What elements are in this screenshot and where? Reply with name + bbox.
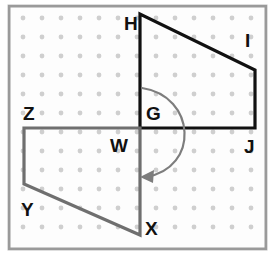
grid-dot [21, 54, 26, 59]
grid-dot [230, 111, 235, 116]
grid-dot [173, 225, 178, 230]
grid-dot [59, 54, 64, 59]
grid-dot [40, 92, 45, 97]
grid-dot [59, 149, 64, 154]
grid-dot [59, 187, 64, 192]
grid-dot [97, 16, 102, 21]
grid-dot [230, 206, 235, 211]
grid-dot [97, 73, 102, 78]
grid-dot [97, 206, 102, 211]
grid-dot [40, 54, 45, 59]
grid-dot [59, 35, 64, 40]
grid-dot [59, 225, 64, 230]
grid-dot [78, 130, 83, 135]
grid-dot [211, 149, 216, 154]
grid-dot [173, 206, 178, 211]
grid-dot [154, 35, 159, 40]
grid-dot [21, 35, 26, 40]
grid-dot [249, 130, 254, 135]
grid-dot [154, 187, 159, 192]
grid-dot [249, 225, 254, 230]
grid-dot [211, 35, 216, 40]
grid-dot [230, 16, 235, 21]
grid-dot [78, 35, 83, 40]
vertex-label-J: J [244, 136, 255, 157]
grid-dot [230, 92, 235, 97]
grid-dot [192, 225, 197, 230]
grid-dot [21, 187, 26, 192]
grid-dot [192, 130, 197, 135]
grid-dot [21, 92, 26, 97]
grid-dot [78, 225, 83, 230]
grid-dot [230, 35, 235, 40]
grid-dot [40, 149, 45, 154]
geometry-figure-canvas: HIGJZWYX [0, 0, 278, 265]
grid-dot [230, 73, 235, 78]
grid-dot [40, 16, 45, 21]
grid-dot [192, 149, 197, 154]
grid-dot [249, 16, 254, 21]
vertex-label-X: X [145, 218, 158, 239]
grid-dot [78, 16, 83, 21]
grid-dot [211, 73, 216, 78]
grid-dot [154, 206, 159, 211]
grid-dot [40, 168, 45, 173]
grid-dot [154, 73, 159, 78]
grid-dot [97, 111, 102, 116]
grid-dot [78, 92, 83, 97]
grid-dot [78, 187, 83, 192]
grid-dot [192, 111, 197, 116]
grid-dot [116, 111, 121, 116]
grid-dot [249, 168, 254, 173]
grid-dot [192, 92, 197, 97]
grid-dot [192, 73, 197, 78]
grid-dot [97, 187, 102, 192]
grid-dot [59, 73, 64, 78]
grid-dot [173, 111, 178, 116]
grid-dot [211, 92, 216, 97]
grid-dot [97, 149, 102, 154]
grid-dot [97, 35, 102, 40]
grid-dot [116, 187, 121, 192]
grid-dot [230, 130, 235, 135]
vertex-label-W: W [110, 135, 128, 156]
grid-dot [97, 54, 102, 59]
grid-dot [249, 73, 254, 78]
grid-dot [211, 206, 216, 211]
grid-dot [154, 149, 159, 154]
grid-dot [173, 16, 178, 21]
grid-dot [40, 130, 45, 135]
grid-dot [116, 73, 121, 78]
grid-dot [59, 111, 64, 116]
grid-dot [211, 168, 216, 173]
grid-dot [249, 54, 254, 59]
grid-dot [59, 168, 64, 173]
grid-dot [173, 54, 178, 59]
grid-dot [173, 73, 178, 78]
vertex-label-I: I [245, 30, 250, 51]
grid-dot [173, 92, 178, 97]
grid-dot [97, 92, 102, 97]
grid-dot [116, 130, 121, 135]
grid-dot [154, 168, 159, 173]
grid-dot [249, 187, 254, 192]
grid-dot [211, 187, 216, 192]
grid-dot [21, 225, 26, 230]
grid-dot [154, 54, 159, 59]
grid-dot [78, 111, 83, 116]
grid-dot [173, 35, 178, 40]
figure-svg: HIGJZWYX [0, 0, 278, 265]
grid-dot [78, 168, 83, 173]
grid-dot [211, 16, 216, 21]
grid-dot [230, 187, 235, 192]
grid-dot [59, 92, 64, 97]
grid-dot [59, 206, 64, 211]
grid-dot [78, 149, 83, 154]
grid-dot [173, 187, 178, 192]
grid-dot [97, 168, 102, 173]
grid-dot [116, 206, 121, 211]
grid-dot [21, 16, 26, 21]
grid-dot [249, 92, 254, 97]
grid-dot [192, 206, 197, 211]
grid-dot [173, 168, 178, 173]
